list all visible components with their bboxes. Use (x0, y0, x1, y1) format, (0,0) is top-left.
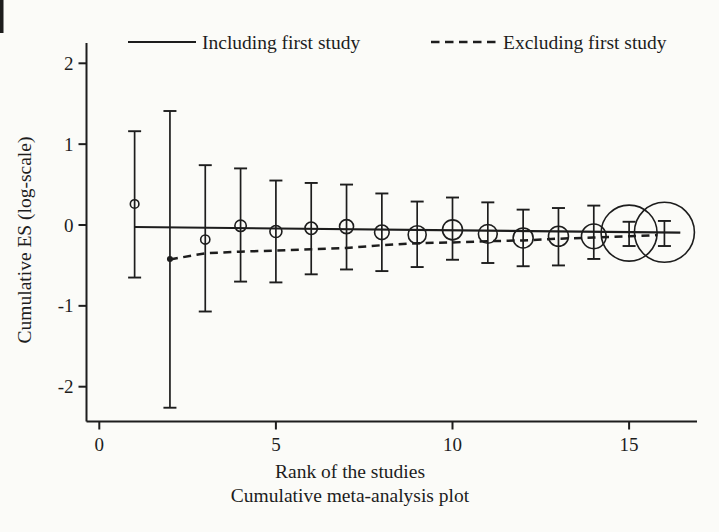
legend-label-including: Including first study (202, 32, 360, 53)
y-tick-label: 1 (64, 134, 74, 155)
x-axis-label: Rank of the studies (275, 461, 425, 482)
figure-background (0, 0, 719, 532)
y-tick-label: 0 (64, 215, 74, 236)
x-tick-label: 10 (443, 434, 462, 455)
study-dot (167, 256, 173, 262)
chart-svg: Including first study Excluding first st… (0, 0, 719, 532)
x-tick-label: 0 (95, 434, 105, 455)
x-tick-label: 15 (620, 434, 639, 455)
y-tick-label: 2 (64, 53, 74, 74)
scan-edge-artifact (0, 0, 4, 33)
legend-label-excluding: Excluding first study (503, 32, 667, 53)
x-tick-label: 5 (271, 434, 281, 455)
y-tick-label: -1 (58, 295, 74, 316)
chart-caption: Cumulative meta-analysis plot (231, 485, 470, 506)
y-tick-label: -2 (58, 376, 74, 397)
cumulative-meta-analysis-figure: Including first study Excluding first st… (0, 0, 719, 532)
y-axis-label: Cumulative ES (log-scale) (14, 137, 36, 344)
